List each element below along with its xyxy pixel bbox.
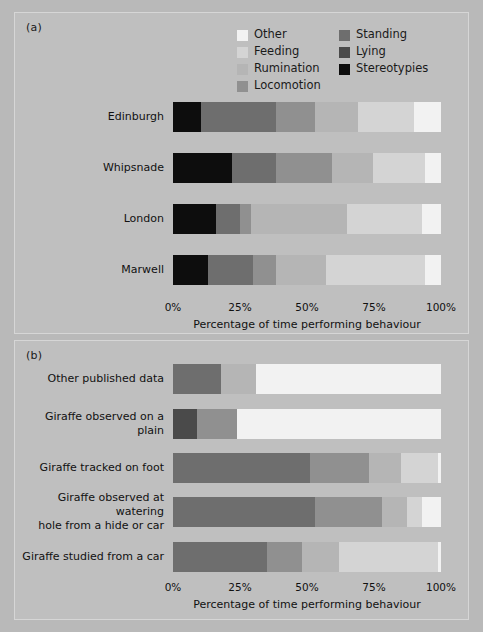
legend-swatch-icon <box>237 47 248 58</box>
chart-a-axis-title: Percentage of time performing behaviour <box>173 318 441 331</box>
bar-segment-feeding <box>358 102 414 132</box>
bar-segment-other <box>438 453 441 483</box>
bar-segment-rumination <box>276 255 326 285</box>
panel-a: (a) OtherStandingFeedingLyingRuminationS… <box>14 12 469 334</box>
bar-segment-feeding <box>401 453 439 483</box>
bar-category-label: Giraffe studied from a car <box>15 550 173 564</box>
bar-row: Giraffe tracked on foot <box>15 446 470 490</box>
legend-swatch-icon <box>237 64 248 75</box>
bar-segment-feeding <box>326 255 425 285</box>
chart-a-plot-area: EdinburghWhipsnadeLondonMarwell <box>15 91 470 296</box>
bar-segment-standing <box>173 364 221 394</box>
chart-b-x-axis: 0%25%50%75%100% Percentage of time perfo… <box>173 581 441 615</box>
bar-category-label: Giraffe observed on a plain <box>15 410 173 438</box>
axis-tick-label: 100% <box>426 301 456 313</box>
legend-item-label: Stereotypies <box>356 63 428 75</box>
bar-segment-feeding <box>347 204 422 234</box>
axis-tick-label: 50% <box>295 301 318 313</box>
chart-b-plot-area: Other published dataGiraffe observed on … <box>15 357 470 579</box>
bar-segment-standing <box>173 542 267 572</box>
legend: OtherStandingFeedingLyingRuminationStere… <box>237 27 428 94</box>
bar-segment-other <box>422 204 441 234</box>
bar-segment-feeding <box>407 497 422 527</box>
bar-row: Edinburgh <box>15 91 470 142</box>
bar-row: Marwell <box>15 245 470 296</box>
legend-swatch-icon <box>237 30 248 41</box>
legend-item-lying: Lying <box>339 44 428 60</box>
legend-item-label: Standing <box>356 29 407 41</box>
bar-segment-other <box>422 497 441 527</box>
bar-segment-rumination <box>315 102 358 132</box>
stacked-bar <box>173 153 441 183</box>
stacked-bar <box>173 542 441 572</box>
bar-segment-stereotypies <box>173 255 208 285</box>
legend-item-label: Feeding <box>254 46 299 58</box>
bar-segment-other <box>256 364 441 394</box>
bar-row: Giraffe studied from a car <box>15 535 470 579</box>
stacked-bar <box>173 364 441 394</box>
axis-tick-label: 25% <box>228 581 251 593</box>
bar-category-label: London <box>15 212 173 226</box>
bar-segment-other <box>438 542 441 572</box>
bar-segment-locomotion <box>253 255 276 285</box>
stacked-bar <box>173 204 441 234</box>
bar-row: Giraffe observed at wateringhole from a … <box>15 490 470 534</box>
bar-segment-stereotypies <box>173 204 216 234</box>
axis-tick-label: 100% <box>426 581 456 593</box>
axis-tick-label: 75% <box>362 581 385 593</box>
bar-segment-standing <box>208 255 254 285</box>
bar-segment-rumination <box>302 542 340 572</box>
legend-item-feeding: Feeding <box>237 44 321 60</box>
axis-tick-label: 50% <box>295 581 318 593</box>
bar-segment-stereotypies <box>173 153 232 183</box>
bar-category-label: Whipsnade <box>15 161 173 175</box>
bar-segment-standing <box>173 497 315 527</box>
bar-segment-feeding <box>339 542 438 572</box>
bar-segment-locomotion <box>315 497 382 527</box>
bar-segment-other <box>425 255 441 285</box>
stacked-bar <box>173 453 441 483</box>
legend-swatch-icon <box>339 64 350 75</box>
bar-category-label: Other published data <box>15 372 173 386</box>
bar-segment-locomotion <box>276 153 332 183</box>
stacked-bar <box>173 409 441 439</box>
legend-item-rumination: Rumination <box>237 61 321 77</box>
bar-category-label: Marwell <box>15 263 173 277</box>
axis-tick-label: 25% <box>228 301 251 313</box>
axis-tick-label: 0% <box>165 581 182 593</box>
bar-segment-standing <box>216 204 240 234</box>
legend-swatch-icon <box>339 47 350 58</box>
bar-segment-standing <box>232 153 276 183</box>
bar-segment-locomotion <box>197 409 237 439</box>
bar-segment-rumination <box>382 497 407 527</box>
bar-segment-locomotion <box>267 542 302 572</box>
legend-item-label: Other <box>254 29 287 41</box>
bar-segment-rumination <box>221 364 256 394</box>
bar-category-label: Giraffe observed at wateringhole from a … <box>15 491 173 533</box>
bar-segment-standing <box>201 102 276 132</box>
legend-item-label: Lying <box>356 46 386 58</box>
bar-segment-rumination <box>251 204 347 234</box>
bar-segment-locomotion <box>310 453 369 483</box>
panel-a-label: (a) <box>26 21 42 34</box>
chart-a-x-axis: 0%25%50%75%100% Percentage of time perfo… <box>173 301 441 335</box>
legend-item-other: Other <box>237 27 321 43</box>
stacked-bar <box>173 102 441 132</box>
bar-segment-other <box>425 153 441 183</box>
bar-segment-rumination <box>332 153 372 183</box>
axis-tick-label: 75% <box>362 301 385 313</box>
legend-item-standing: Standing <box>339 27 428 43</box>
legend-item-stereotypies: Stereotypies <box>339 61 428 77</box>
bar-segment-feeding <box>373 153 425 183</box>
legend-item-label: Rumination <box>254 63 320 75</box>
bar-category-label: Giraffe tracked on foot <box>15 461 173 475</box>
figure-container: (a) OtherStandingFeedingLyingRuminationS… <box>0 0 483 632</box>
bar-segment-standing <box>173 453 310 483</box>
chart-b-axis-title: Percentage of time performing behaviour <box>173 598 441 611</box>
bar-segment-other <box>414 102 441 132</box>
stacked-bar <box>173 497 441 527</box>
legend-swatch-icon <box>339 30 350 41</box>
chart-a-tick-labels: 0%25%50%75%100% <box>173 301 441 316</box>
bar-row: Giraffe observed on a plain <box>15 401 470 445</box>
bar-segment-rumination <box>369 453 401 483</box>
